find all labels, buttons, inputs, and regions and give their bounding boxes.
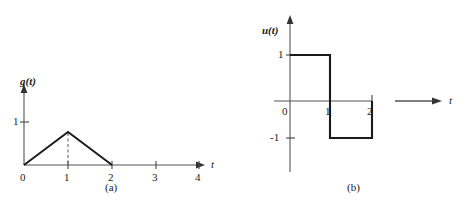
x-tick-label-1-a: 1 <box>64 172 70 183</box>
figure-container: g(t) 1 0 1 2 3 4 t (a) u(t) <box>0 0 468 204</box>
x-tick-label-2-b: 2 <box>367 106 373 117</box>
function-label-u: u(t) <box>262 25 279 36</box>
y-tick-label-1-a: 1 <box>13 116 19 127</box>
x-tick-label-1-b: 1 <box>325 106 331 117</box>
y-axis-arrowhead-b <box>287 15 294 24</box>
panel-caption-a: (a) <box>105 182 117 193</box>
panel-caption-b: (b) <box>347 182 360 193</box>
y-tick-label-1-b: 1 <box>278 49 284 60</box>
x-tick-label-4-a: 4 <box>195 172 201 183</box>
chart-panel-b: u(t) 1 -1 0 1 2 t (b) <box>234 0 468 204</box>
x-tick-label-0-a: 0 <box>20 172 26 183</box>
waveform-g-a <box>24 132 112 165</box>
chart-panel-a: g(t) 1 0 1 2 3 4 t (a) <box>0 0 234 204</box>
x-axis-label-b: t <box>449 95 452 106</box>
waveform-u-b <box>290 55 372 138</box>
x-axis-arrowhead-a <box>196 162 205 169</box>
x-axis-label-a: t <box>211 159 214 170</box>
x-tick-label-0-b: 0 <box>282 106 288 117</box>
function-label-g: g(t) <box>20 76 36 87</box>
x-axis-arrowhead-b <box>432 97 442 104</box>
y-tick-label-neg1-b: -1 <box>270 132 279 143</box>
x-tick-label-3-a: 3 <box>152 172 158 183</box>
